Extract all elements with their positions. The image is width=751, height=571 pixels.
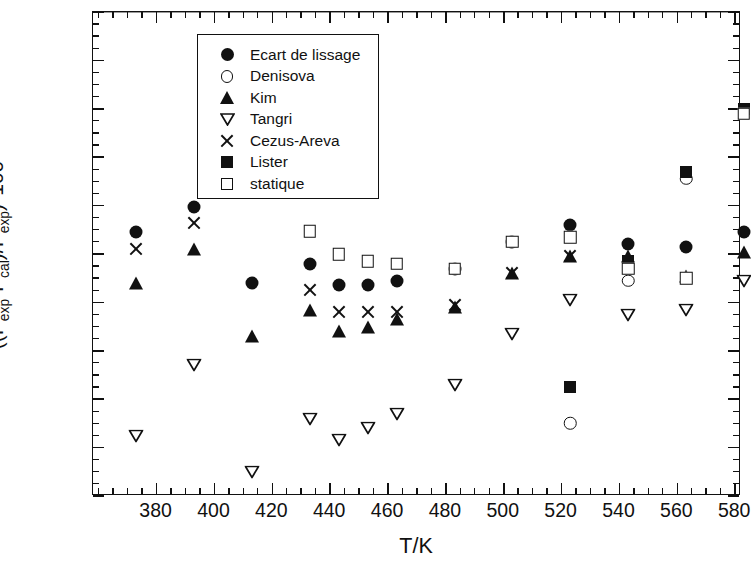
- x-tick-minor: [402, 488, 403, 494]
- x-tick-minor: [474, 488, 475, 494]
- x-tick-major-top: [214, 12, 216, 23]
- x-tick-minor-top: [257, 12, 258, 18]
- y-tick-minor: [93, 229, 99, 230]
- data-point: [506, 236, 519, 249]
- marker-square-open-icon: [362, 255, 375, 268]
- y-tick-minor: [93, 435, 99, 436]
- x-tick-label: 440: [313, 499, 346, 522]
- data-point: [362, 255, 375, 268]
- data-point: [680, 272, 693, 285]
- data-point: [505, 327, 520, 340]
- x-tick-major: [329, 483, 331, 494]
- x-tick-minor-top: [315, 12, 316, 18]
- y-tick-major: [93, 447, 104, 449]
- y-tick-minor: [93, 483, 99, 484]
- data-point: [563, 249, 577, 263]
- y-tick-minor-right: [733, 35, 739, 36]
- y-tick-minor: [93, 48, 99, 49]
- y-tick-major: [93, 495, 104, 497]
- y-tick-major-right: [728, 156, 739, 158]
- data-point: [563, 293, 578, 306]
- data-point: [390, 274, 403, 287]
- x-tick-major-top: [619, 12, 621, 23]
- x-tick-minor: [662, 488, 663, 494]
- y-tick-minor-right: [733, 96, 739, 97]
- data-point: [332, 279, 345, 292]
- data-point: [187, 243, 201, 256]
- x-tick-minor-top: [546, 12, 547, 18]
- x-tick-minor-top: [416, 12, 417, 18]
- y-tick-minor: [93, 169, 99, 170]
- y-tick-minor: [93, 265, 99, 266]
- data-point: [303, 257, 316, 270]
- data-point: [391, 257, 404, 270]
- x-tick-minor: [532, 488, 533, 494]
- marker-triangle-up-icon: [361, 320, 375, 333]
- marker-circle-filled-icon: [390, 274, 403, 287]
- marker-triangle-down-open-icon: [129, 429, 144, 442]
- marker-square-open-icon: [221, 178, 234, 191]
- x-tick-minor: [460, 488, 461, 494]
- data-point: [303, 283, 317, 297]
- x-tick-minor-top: [590, 12, 591, 18]
- y-tick-major-right: [728, 398, 739, 400]
- x-tick-major: [156, 483, 158, 494]
- marker-square-open-icon: [564, 231, 577, 244]
- marker-circle-open-icon: [622, 274, 635, 287]
- marker-triangle-up-icon: [332, 325, 346, 338]
- x-tick-minor-top: [185, 12, 186, 18]
- marker-triangle-down-open-icon: [563, 293, 578, 306]
- y-axis-title: ((Pexp-Pcal)/Pexp)*100: [0, 161, 12, 349]
- x-tick-major-top: [503, 12, 505, 23]
- x-tick-minor-top: [98, 12, 99, 18]
- marker-square-open-icon: [333, 248, 346, 261]
- legend-item-ecart-de-lissage: Ecart de lissage: [198, 44, 378, 66]
- data-point: [448, 262, 461, 275]
- legend-label: Denisova: [242, 67, 315, 85]
- marker-triangle-up-icon: [303, 303, 317, 316]
- x-tick-minor: [185, 488, 186, 494]
- x-tick-minor: [546, 488, 547, 494]
- data-point: [129, 277, 143, 290]
- x-tick-minor-top: [243, 12, 244, 18]
- legend-label: Kim: [242, 89, 277, 107]
- data-point: [737, 226, 750, 239]
- marker-triangle-down-open-icon: [736, 274, 751, 287]
- y-tick-minor-right: [733, 144, 739, 145]
- x-tick-major: [387, 483, 389, 494]
- y-tick-minor: [93, 314, 99, 315]
- x-tick-minor-top: [532, 12, 533, 18]
- marker-triangle-up-icon: [187, 243, 201, 256]
- x-tick-minor-top: [344, 12, 345, 18]
- x-tick-minor: [286, 488, 287, 494]
- y-tick-minor: [93, 277, 99, 278]
- x-tick-minor: [170, 488, 171, 494]
- marker-triangle-down-open-icon: [389, 407, 404, 420]
- data-point: [505, 266, 519, 280]
- marker-x-cross-icon: [129, 242, 143, 256]
- y-tick-major-right: [728, 495, 739, 497]
- marker-triangle-down-open-icon: [220, 113, 235, 126]
- x-tick-minor: [575, 488, 576, 494]
- data-point: [187, 359, 202, 372]
- y-tick-minor-right: [733, 48, 739, 49]
- data-point: [679, 303, 694, 316]
- x-tick-minor-top: [373, 12, 374, 18]
- x-tick-minor-top: [170, 12, 171, 18]
- x-tick-minor: [344, 488, 345, 494]
- x-tick-label: 380: [139, 499, 172, 522]
- y-tick-minor: [93, 459, 99, 460]
- legend-item-denisova: Denisova: [198, 66, 378, 88]
- marker-triangle-up-icon: [245, 330, 259, 343]
- x-tick-major-top: [387, 12, 389, 23]
- data-point: [680, 166, 692, 178]
- data-point: [621, 308, 636, 321]
- x-tick-minor: [633, 488, 634, 494]
- x-tick-minor: [416, 488, 417, 494]
- marker-square-filled-icon: [680, 166, 692, 178]
- data-point: [129, 242, 143, 256]
- x-tick-major: [272, 483, 274, 494]
- y-tick-minor: [93, 84, 99, 85]
- x-tick-minor-top: [691, 12, 692, 18]
- x-axis-title: T/K: [399, 534, 432, 559]
